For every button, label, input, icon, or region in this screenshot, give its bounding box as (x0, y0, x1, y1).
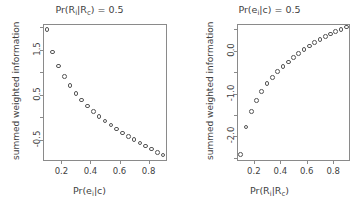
data-point (155, 150, 160, 155)
data-point (275, 69, 280, 74)
panel-right-points (238, 25, 349, 160)
panel-right-title-mid: |c (259, 4, 267, 15)
panel-right-xlab-prefix: Pr(R (250, 185, 270, 196)
panel-right-xlab-sub1: i (270, 190, 272, 198)
y-axis-tick-minor (40, 117, 44, 118)
x-axis-tick-label: 0.2 (247, 166, 261, 176)
panel-left-plot-frame: -0.50.51.5 0.20.40.60.8 (43, 24, 167, 161)
data-point (126, 134, 131, 139)
panel-right-x-axis-title: Pr(Ri|Rc) (180, 185, 359, 196)
x-axis-tick (90, 160, 91, 164)
x-axis-tick (120, 160, 121, 164)
data-point (132, 137, 137, 142)
data-point (56, 64, 61, 69)
x-axis-tick-label: 0.2 (55, 166, 69, 176)
data-point (270, 75, 275, 80)
data-point (302, 47, 307, 52)
data-point (97, 114, 102, 119)
data-point (91, 109, 96, 114)
panel-left-title-mid: |R (77, 4, 87, 15)
x-axis-tick-label: 0.6 (300, 166, 314, 176)
y-axis-tick-minor (40, 27, 44, 28)
y-axis-tick-minor (234, 158, 238, 159)
data-point (281, 64, 286, 69)
panel-left-y-axis-title: summed weighted information (11, 22, 21, 160)
data-point (45, 27, 50, 32)
panel-left-x-axis-title: Pr(ei|c) (0, 185, 179, 196)
data-point (307, 44, 312, 49)
data-point (62, 74, 67, 79)
panel-left-title: Pr(Ri|Rc) = 0.5 (0, 4, 179, 15)
data-point (79, 98, 84, 103)
figure-container: Pr(Ri|Rc) = 0.5 -0.50.51.5 0.20.40.60.8 … (0, 0, 359, 209)
x-axis-tick (307, 160, 308, 164)
data-point (85, 104, 90, 109)
y-axis-tick-label: 0.0 (226, 43, 236, 57)
y-axis-tick-minor (234, 115, 238, 116)
data-point (259, 89, 264, 94)
panel-right-xlab-suffix: ) (285, 185, 289, 196)
y-axis-tick-minor (40, 72, 44, 73)
data-point (323, 34, 328, 39)
x-axis-tick (254, 160, 255, 164)
panel-left-xlab-prefix: Pr(e (73, 185, 92, 196)
panel-right-title-prefix: Pr(e (238, 4, 257, 15)
x-axis-tick-label: 0.4 (274, 166, 288, 176)
x-axis-tick (149, 160, 150, 164)
data-point (265, 81, 270, 86)
data-point (109, 123, 114, 128)
chart-panel-left: Pr(Ri|Rc) = 0.5 -0.50.51.5 0.20.40.60.8 … (0, 0, 179, 209)
data-point (120, 131, 125, 136)
data-point (244, 125, 249, 130)
panel-right-y-axis-title: summed weighted information (205, 22, 215, 160)
panel-left-title-sub1: i (75, 9, 77, 17)
panel-left-xlab-sub1: i (92, 190, 94, 198)
data-point (291, 55, 296, 60)
panel-right-title-suffix: ) = 0.5 (268, 4, 301, 15)
data-point (114, 127, 119, 132)
data-point (333, 29, 338, 34)
chart-panel-right: Pr(ei|c) = 0.5 -2.0-1.00.0 0.20.40.60.8 … (180, 0, 359, 209)
data-point (339, 27, 344, 32)
data-point (149, 147, 154, 152)
panel-left-points (44, 25, 166, 160)
data-point (103, 119, 108, 124)
panel-right-plot-frame: -2.0-1.00.0 0.20.40.60.8 (237, 24, 350, 161)
panel-right-title: Pr(ei|c) = 0.5 (180, 4, 359, 15)
panel-left-title-sub2: c (87, 9, 91, 17)
panel-left-title-prefix: Pr(R (55, 4, 75, 15)
data-point (296, 51, 301, 56)
data-point (286, 60, 291, 65)
data-point (249, 109, 254, 114)
data-point (161, 153, 166, 158)
data-point (328, 32, 333, 37)
data-point (312, 40, 317, 45)
data-point (68, 83, 73, 88)
data-point (318, 37, 323, 42)
x-axis-tick-label: 0.4 (84, 166, 98, 176)
data-point (50, 50, 55, 55)
y-axis-tick-minor (234, 72, 238, 73)
x-axis-tick (333, 160, 334, 164)
x-axis-tick-label: 0.8 (326, 166, 340, 176)
y-axis-tick-minor (234, 29, 238, 30)
panel-left-xlab-suffix: |c) (94, 185, 106, 196)
x-axis-tick-label: 0.6 (113, 166, 127, 176)
panel-left-title-suffix: ) = 0.5 (91, 4, 124, 15)
y-axis-tick-label: -0.5 (32, 130, 42, 147)
x-axis-tick (61, 160, 62, 164)
y-axis-tick-label: -2.0 (226, 127, 236, 144)
y-axis-tick-label: 1.5 (32, 42, 42, 56)
panel-right-xlab-mid: |R (272, 185, 282, 196)
data-point (254, 98, 259, 103)
data-point (143, 144, 148, 149)
x-axis-tick (280, 160, 281, 164)
data-point (238, 152, 243, 157)
y-axis-tick-label: -1.0 (226, 84, 236, 101)
data-point (138, 141, 143, 146)
data-point (344, 25, 349, 30)
panel-right-xlab-sub2: c (281, 190, 285, 198)
data-point (74, 91, 79, 96)
x-axis-tick-label: 0.8 (142, 166, 156, 176)
y-axis-tick-label: 0.5 (32, 87, 42, 101)
